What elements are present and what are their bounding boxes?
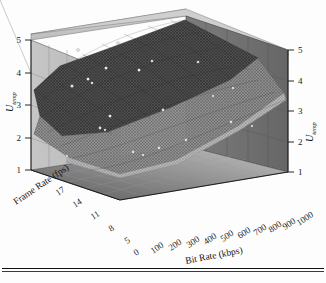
right-ztick-label: 2 (298, 137, 303, 147)
bit-rate-tick-label: 400 (202, 231, 219, 247)
data-point (251, 125, 253, 127)
frame-rate-tick-label: 5 (123, 235, 133, 246)
data-point (232, 87, 235, 90)
right-ztick-label: 4 (298, 76, 303, 86)
right-ztick-label: 5 (298, 45, 303, 55)
bit-rate-tick-label: 100 (149, 240, 166, 256)
left-ztick-label: 4 (17, 68, 22, 78)
data-point (77, 49, 80, 52)
left-axis-title-sub: temp (10, 91, 17, 104)
data-point (87, 78, 90, 81)
bit-rate-tick-label: 800 (267, 219, 284, 235)
data-point (212, 95, 214, 97)
bit-rate-tick-label: 600 (236, 225, 253, 241)
frame-rate-tick-label: 11 (89, 209, 102, 222)
figure-container: 5 4 3 2 1 Utemp 5 4 3 2 (0, 0, 326, 283)
bit-rate-tick-label: 1000 (295, 209, 316, 228)
data-point (151, 60, 154, 63)
frame-rate-tick-label: 17 (54, 184, 67, 198)
right-ztick-label: 3 (298, 106, 303, 116)
frame-rate-tick-label: 8 (107, 223, 117, 234)
left-ztick-label: 1 (17, 165, 22, 175)
right-axis-title-sub: temp (310, 121, 317, 134)
data-point (230, 121, 233, 124)
right-axis-title: Utemp (304, 121, 317, 142)
left-ztick-label: 5 (17, 35, 22, 45)
data-point (117, 42, 120, 45)
data-point (105, 67, 108, 70)
data-point (71, 85, 74, 88)
bit-rate-tick-label: 0 (132, 247, 142, 258)
data-point (197, 61, 200, 64)
left-axis-title: Utemp (4, 91, 17, 112)
data-point (104, 129, 106, 131)
surface-plot-3d: 5 4 3 2 1 Utemp 5 4 3 2 (0, 0, 326, 283)
bit-rate-axis-title: Bit Rate (kbps) (184, 245, 243, 267)
data-point (162, 109, 165, 112)
data-point (109, 115, 112, 118)
data-point (158, 147, 161, 150)
frame-rate-tick-label: 14 (71, 196, 84, 210)
left-z-axis: 5 4 3 2 1 Utemp (4, 35, 31, 175)
data-point (66, 155, 68, 157)
data-point (91, 82, 94, 85)
bit-rate-tick-label: 500 (219, 228, 236, 244)
data-point (142, 154, 145, 157)
left-ztick-label: 3 (17, 100, 22, 110)
right-ztick-label: 1 (298, 167, 303, 177)
data-point (99, 127, 102, 130)
data-point (185, 139, 188, 142)
bit-rate-tick-label: 700 (252, 222, 269, 238)
data-point (138, 69, 141, 72)
bit-rate-tick-label: 300 (185, 234, 202, 250)
page-separator-rule (2, 268, 324, 269)
bit-rate-tick-label: 200 (167, 237, 184, 253)
right-z-axis: 5 4 3 2 1 Utemp (288, 45, 317, 177)
page-separator-rule-secondary (2, 271, 324, 272)
left-ztick-label: 2 (17, 133, 22, 143)
data-point (132, 151, 135, 154)
